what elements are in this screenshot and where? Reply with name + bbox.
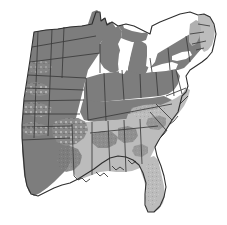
- us-map-graphic: [0, 0, 227, 225]
- map-figure: [0, 0, 227, 225]
